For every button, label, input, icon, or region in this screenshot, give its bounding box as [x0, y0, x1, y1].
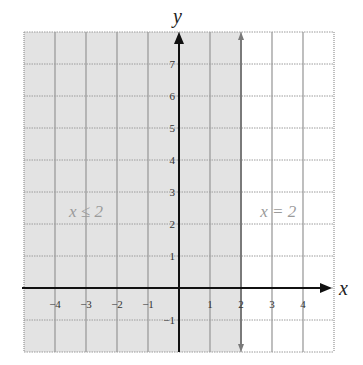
inequality-plot: xy−4−3−2−112347654321−1x ≤ 2x = 2 [0, 0, 363, 365]
x-tick-label: 3 [269, 298, 275, 310]
y-axis-label: y [171, 5, 182, 28]
x-tick-label: −3 [80, 298, 92, 310]
y-tick-label: 3 [170, 186, 176, 198]
y-tick-label: −1 [163, 314, 175, 326]
inequality-label: x ≤ 2 [68, 202, 103, 221]
y-tick-label: 4 [170, 154, 176, 166]
x-tick-label: 4 [300, 298, 306, 310]
boundary-equation-label: x = 2 [259, 202, 297, 221]
x-tick-label: −4 [49, 298, 61, 310]
y-tick-label: 7 [170, 58, 176, 70]
x-axis-label: x [338, 277, 348, 299]
y-tick-label: 1 [170, 250, 176, 262]
x-tick-label: 2 [238, 298, 244, 310]
x-tick-label: −2 [111, 298, 123, 310]
x-tick-label: 1 [207, 298, 213, 310]
x-axis-arrow-icon [320, 283, 332, 293]
y-tick-label: 6 [170, 90, 176, 102]
x-tick-label: −1 [142, 298, 154, 310]
y-tick-label: 2 [170, 218, 176, 230]
y-tick-label: 5 [170, 122, 176, 134]
